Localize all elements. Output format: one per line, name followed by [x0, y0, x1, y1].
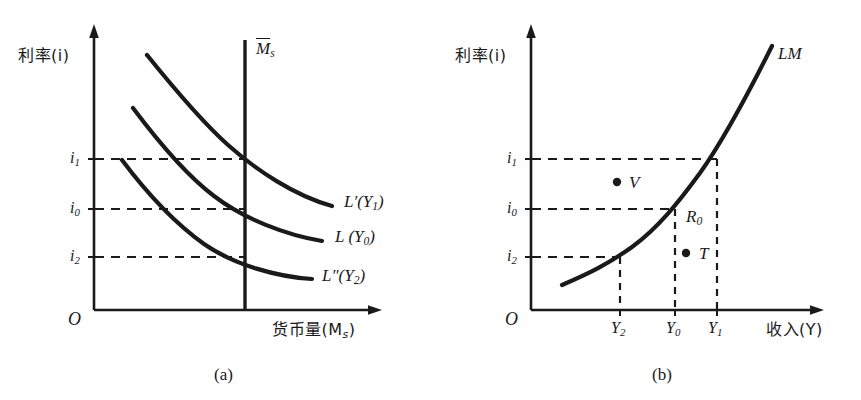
- curve-L-double-prime-Y2: [122, 160, 312, 279]
- panel-a-x-axis-arrow: [368, 305, 382, 315]
- money-supply-label-main: M: [256, 38, 270, 57]
- curve-label-L-double-prime-close: ): [359, 266, 365, 285]
- panel-b-x-axis-arrow: [810, 305, 824, 315]
- panel-b-caption: (b): [652, 366, 672, 383]
- curve-L-prime-Y1: [147, 55, 332, 206]
- panel-b-ytick-i0: i0: [507, 200, 517, 216]
- panel-a-y-axis-arrow: [89, 24, 99, 38]
- panel-b-xtick-Y1-main: Y: [708, 319, 717, 336]
- money-supply-label-sub: s: [270, 47, 275, 60]
- point-label-R0: R0: [686, 208, 702, 225]
- curve-label-LM: LM: [778, 45, 802, 62]
- curve-L-Y0: [133, 108, 322, 241]
- money-supply-label: Ms: [256, 38, 275, 57]
- curve-label-L-double-prime: L″(Y2): [322, 267, 365, 284]
- panel-b-ytick-i1: i1: [507, 150, 517, 166]
- panel-b-ytick-i1-sub: 1: [511, 156, 516, 168]
- economics-figure: 利率(i) 货币量(Ms) O Ms i1 i0 i2 L′(Y1) L (Y0…: [0, 0, 861, 400]
- panel-a-ytick-i2-sub: 2: [74, 254, 79, 266]
- curve-label-L: L (Y0): [335, 228, 375, 245]
- panel-b-xtick-Y0: Y0: [666, 320, 680, 336]
- curve-label-L-close: ): [369, 227, 375, 246]
- panel-a-ytick-i0: i0: [70, 200, 80, 216]
- panel-b-y-axis-label: 利率(i): [455, 48, 506, 64]
- panel-a-ytick-i0-sub: 0: [74, 206, 79, 218]
- point-label-V: V: [629, 174, 639, 191]
- panel-a-y-axis-label: 利率(i): [18, 48, 69, 64]
- panel-a-x-axis-label-close: ): [349, 320, 356, 339]
- curve-label-L-double-prime-main: L″(Y: [322, 266, 354, 285]
- panel-b-xtick-Y1: Y1: [708, 320, 722, 336]
- panel-b-axes: [526, 24, 824, 315]
- panel-a-origin-label: O: [68, 310, 81, 328]
- point-label-T: T: [699, 245, 708, 262]
- panel-a-ytick-i2: i2: [70, 248, 80, 264]
- curve-label-L-main: L (Y: [335, 227, 364, 246]
- panel-a-ytick-i1-sub: 1: [74, 156, 79, 168]
- panel-b-y-axis-arrow: [526, 24, 536, 38]
- panel-a-caption: (a): [214, 366, 233, 383]
- point-T-dot: [682, 249, 690, 257]
- panel-b-origin-label: O: [505, 310, 518, 328]
- figure-vector-layer: [0, 0, 861, 400]
- panel-b-xtick-Y2: Y2: [611, 320, 625, 336]
- curve-label-L-prime: L′(Y1): [344, 193, 384, 210]
- curve-label-L-prime-main: L′(Y: [344, 192, 372, 211]
- panel-a-dashed-guides: [95, 159, 245, 257]
- panel-b-ytick-i0-sub: 0: [511, 206, 516, 218]
- panel-b-xtick-Y2-main: Y: [611, 319, 620, 336]
- panel-b-xtick-Y1-sub: 1: [717, 326, 722, 338]
- curve-LM: [562, 46, 772, 285]
- panel-a-ytick-i1: i1: [70, 150, 80, 166]
- point-label-R0-main: R: [686, 207, 696, 226]
- panel-a-x-axis-label-main: 货币量(M: [272, 320, 343, 339]
- panel-b-xtick-Y0-main: Y: [666, 319, 675, 336]
- point-V-dot: [613, 178, 621, 186]
- panel-b-xtick-Y2-sub: 2: [620, 326, 625, 338]
- point-label-R0-sub: 0: [696, 215, 702, 228]
- panel-b-xtick-Y0-sub: 0: [675, 326, 680, 338]
- panel-b-ytick-i2: i2: [507, 248, 517, 264]
- panel-b-ytick-i2-sub: 2: [511, 254, 516, 266]
- panel-a-x-axis-label: 货币量(Ms): [272, 322, 355, 338]
- curve-label-L-prime-close: ): [378, 192, 384, 211]
- panel-b-x-axis-label: 收入(Y): [766, 322, 823, 338]
